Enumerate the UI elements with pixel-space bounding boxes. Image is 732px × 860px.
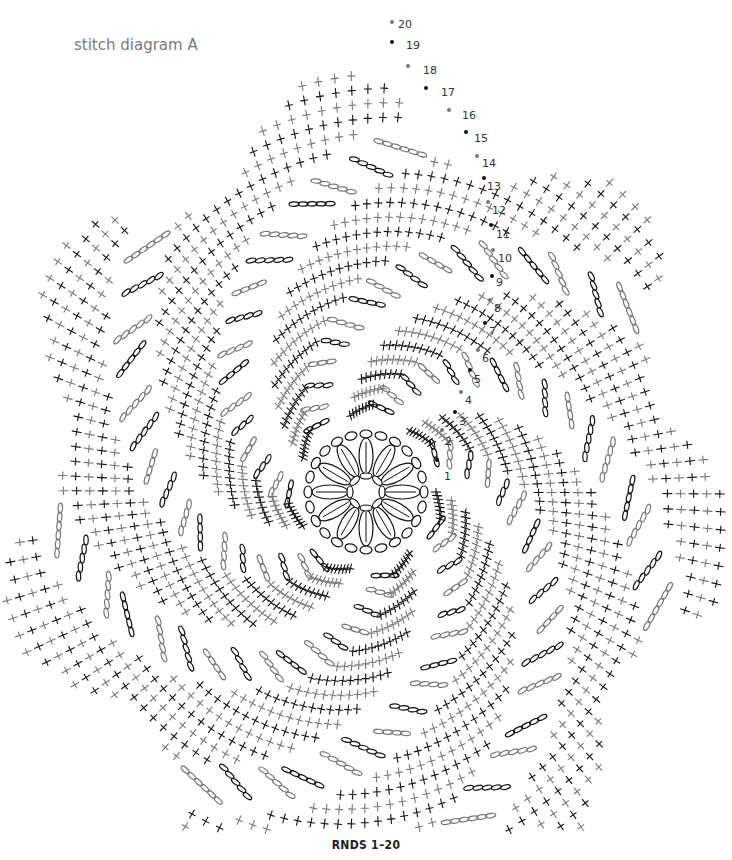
sc-stitch (179, 324, 192, 336)
picot-loop (309, 456, 322, 470)
sc-stitch (619, 582, 631, 593)
sc-stitch (528, 805, 540, 818)
sc-stitch (188, 243, 200, 256)
sc-stitch (286, 176, 296, 188)
sc-stitch (127, 510, 138, 519)
sc-stitch (624, 614, 636, 625)
sc-stitch (433, 318, 445, 330)
sc-stitch (180, 274, 193, 287)
sc-stitch (198, 445, 210, 455)
sc-stitch (500, 637, 513, 650)
sc-stitch (168, 730, 181, 743)
round-labels: 1234567891011121314151617181920 (390, 18, 512, 483)
round-start-marker (483, 321, 487, 325)
sc-stitch (124, 487, 134, 495)
picot-loop (360, 430, 372, 438)
picot-loop (330, 435, 344, 448)
sc-stitch (483, 718, 495, 731)
sc-stitch (155, 561, 167, 572)
sc-stitch (166, 295, 179, 308)
sc-stitch (347, 661, 356, 672)
sc-stitch (563, 686, 576, 699)
sc-stitch (98, 487, 108, 495)
sc-stitch (293, 142, 303, 154)
sc-stitch (326, 266, 336, 277)
sc-stitch (486, 610, 499, 623)
sc-stitch (353, 259, 361, 269)
sc-stitch (169, 383, 181, 395)
sc-stitch (574, 510, 585, 519)
sc-stitch (93, 541, 104, 551)
sc-stitch (148, 541, 160, 551)
sc-stitch (176, 681, 189, 694)
sc-stitch (599, 536, 610, 546)
sc-stitch (344, 704, 353, 715)
chain-loop (622, 475, 636, 521)
sc-stitch (175, 304, 188, 317)
sc-stitch (649, 415, 661, 425)
sc-stitch (204, 402, 216, 414)
chain-loop (260, 225, 307, 244)
sc-stitch (191, 598, 204, 610)
chain-loop (147, 615, 175, 662)
sc-stitch (607, 199, 620, 212)
sc-stitch (526, 771, 538, 784)
round-start-marker (489, 223, 493, 227)
sc-stitch (602, 400, 614, 411)
sc-stitch (631, 223, 644, 236)
sc-stitch (284, 286, 295, 298)
sc-stitch (486, 634, 499, 647)
chain-loop (327, 317, 365, 330)
sc-stitch (500, 289, 512, 302)
sc-stitch (323, 718, 333, 729)
sc-stitch (401, 168, 410, 179)
sc-stitch (228, 494, 238, 502)
sc-stitch (292, 580, 304, 593)
sc-stitch (561, 352, 574, 364)
chain-loop (489, 357, 510, 392)
sc-stitch (84, 353, 96, 364)
sc-stitch (565, 751, 578, 764)
sc-stitch (541, 325, 554, 337)
sc-stitch (573, 345, 586, 357)
sc-stitch (663, 520, 674, 529)
sc-stitch (80, 671, 93, 683)
sc-stitch (700, 473, 710, 481)
sc-stitch (477, 565, 490, 577)
sc-stitch (446, 745, 457, 757)
sc-stitch (616, 595, 628, 606)
sc-stitch (579, 382, 591, 393)
sc-stitch (715, 508, 725, 516)
sc-stitch (156, 285, 169, 298)
sc-stitch (148, 673, 161, 685)
sc-stitch (169, 315, 182, 327)
chain-loop (536, 604, 564, 634)
sc-stitch (559, 797, 571, 810)
sc-stitch (262, 688, 274, 701)
sc-stitch (201, 753, 213, 766)
center-ring-chain (371, 497, 384, 510)
sc-stitch (275, 709, 286, 721)
sc-stitch (187, 727, 200, 740)
sc-stitch (393, 752, 402, 763)
sc-stitch (646, 460, 657, 469)
sc-stitch (109, 550, 121, 560)
sc-stitch (493, 595, 506, 607)
sc-stitch (434, 333, 446, 346)
sc-stitch (448, 792, 459, 804)
sc-stitch (99, 500, 109, 508)
sc-stitch (180, 582, 192, 594)
sc-stitch (552, 785, 564, 798)
sc-stitch (429, 215, 439, 227)
sc-stitch (223, 459, 234, 469)
sc-stitch (586, 672, 599, 684)
sc-stitch (665, 427, 676, 437)
sc-stitch (84, 280, 97, 292)
sc-stitch (569, 467, 580, 476)
sc-stitch (374, 641, 383, 652)
center-motif (304, 430, 428, 554)
sc-stitch (428, 722, 439, 734)
sc-stitch (256, 701, 268, 714)
chain-loop (214, 763, 258, 801)
chain-loop (121, 265, 164, 304)
